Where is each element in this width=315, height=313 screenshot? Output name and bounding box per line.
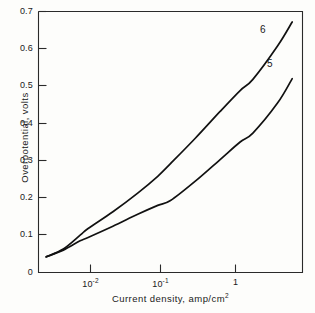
y-tick-label-0.6: 0.6	[0, 43, 33, 53]
figure-background	[0, 0, 315, 313]
x-tick-label-1e-2: 10-2	[74, 277, 107, 289]
plot-canvas	[0, 0, 315, 313]
y-tick-label-0: 0	[0, 267, 33, 277]
curve-label-5: 5	[267, 58, 273, 69]
figure-overpotential-vs-current-density: 0.7 0.6 0.5 0.4 0.3 0.2 0.1 0 10-2 10-1 …	[0, 0, 315, 313]
y-tick-label-0.1: 0.1	[0, 229, 33, 239]
x-axis-title: Current density, amp/cm2	[38, 292, 303, 304]
x-tick-mantissa: 10	[152, 279, 162, 289]
y-axis-title: Overpotential, volts	[19, 68, 30, 208]
x-tick-exponent: -2	[93, 277, 99, 284]
x-tick-exponent: -1	[163, 277, 169, 284]
curve-label-6: 6	[260, 24, 266, 35]
x-axis-title-text: Current density, amp/cm	[112, 293, 225, 304]
x-axis-title-exponent: 2	[225, 292, 229, 299]
x-tick-label-1: 1	[222, 277, 249, 287]
x-tick-mantissa: 1	[233, 277, 238, 287]
x-tick-mantissa: 10	[82, 279, 92, 289]
y-tick-label-0.7: 0.7	[0, 6, 33, 16]
x-tick-label-1e-1: 10-1	[144, 277, 177, 289]
